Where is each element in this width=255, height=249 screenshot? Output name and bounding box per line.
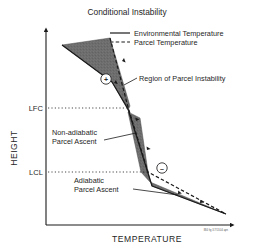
negative-area-region [128, 112, 226, 214]
flow-arrow-lower-c [178, 191, 182, 194]
non-adiabatic-parcel-ascent-label-line2: Parcel Ascent [52, 137, 97, 146]
y-tick-label-lfc: LFC [29, 104, 44, 113]
legend-label-environmental-temperature: Environmental Temperature [134, 29, 224, 38]
positive-area-marker-label: + [104, 76, 108, 83]
non-adiabatic-parcel-ascent-label-line1: Non-adiabatic [52, 128, 97, 137]
page-title: Conditional Instability [87, 7, 167, 17]
y-axis-label: HEIGHT [9, 130, 19, 166]
adiabatic-parcel-ascent-label-line2: Parcel Ascent [74, 185, 119, 194]
non-adiabatic-parcel-ascent-leader [104, 133, 136, 140]
legend-label-parcel-temperature: Parcel Temperature [134, 38, 198, 47]
parcel-temperature-curve [110, 38, 226, 214]
flow-arrow-lower-b [147, 147, 151, 150]
negative-area-marker-label: – [160, 165, 164, 172]
credit-text: 884 fig 3.7/13.04 apn [204, 228, 229, 232]
adiabatic-parcel-ascent-label-line1: Adiabatic [74, 176, 104, 185]
conditional-instability-figure: Conditional Instability LFC LCL TEMPERAT… [0, 0, 255, 249]
y-tick-label-lcl: LCL [29, 168, 43, 177]
region-of-parcel-instability-leader [124, 78, 137, 85]
region-of-parcel-instability-label: Region of Parcel Instability [139, 74, 226, 83]
x-axis-label: TEMPERATURE [112, 234, 182, 244]
flow-arrow-upper-a [122, 58, 126, 62]
